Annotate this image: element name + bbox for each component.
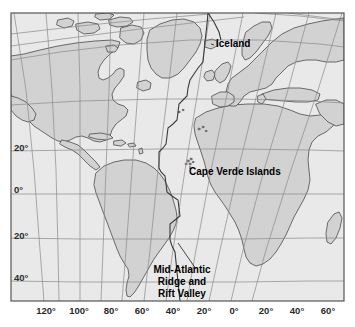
newfoundland-island xyxy=(137,80,151,91)
longitude-tick-20w: 20° xyxy=(197,305,212,316)
label-mid-atlantic-ridge-line-2: Ridge and xyxy=(158,276,206,287)
longitude-tick-40e: 40° xyxy=(290,305,305,316)
atlantic-ocean-map: Iceland Cape Verde Islands Mid-Atlantic … xyxy=(0,0,355,327)
longitude-tick-80w: 80° xyxy=(104,305,119,316)
label-mid-atlantic-ridge-line-1: Mid-Atlantic xyxy=(153,264,211,275)
longitude-tick-120w: 120° xyxy=(36,305,56,316)
latitude-tick-40s: 40° xyxy=(14,272,29,283)
longitude-tick-20e: 20° xyxy=(259,305,274,316)
longitude-axis-labels: 120° 100° 80° 60° 40° 20° 0° 20° 40° 60° xyxy=(36,305,335,316)
label-iceland: Iceland xyxy=(216,38,250,49)
map-figure: Iceland Cape Verde Islands Mid-Atlantic … xyxy=(0,0,355,327)
puerto-rico-island xyxy=(128,143,136,147)
latitude-tick-0: 0° xyxy=(14,184,23,195)
label-mid-atlantic-ridge-line-3: Rift Valley xyxy=(158,288,206,299)
longitude-tick-60w: 60° xyxy=(135,305,150,316)
longitude-tick-60e: 60° xyxy=(321,305,336,316)
longitude-tick-100w: 100° xyxy=(69,305,89,316)
arctic-island-a xyxy=(57,18,74,28)
longitude-tick-0: 0° xyxy=(229,305,238,316)
latitude-tick-20n: 20° xyxy=(14,142,29,153)
label-cape-verde-islands: Cape Verde Islands xyxy=(189,166,281,177)
longitude-tick-40w: 40° xyxy=(166,305,181,316)
latitude-tick-20s: 20° xyxy=(14,230,29,241)
